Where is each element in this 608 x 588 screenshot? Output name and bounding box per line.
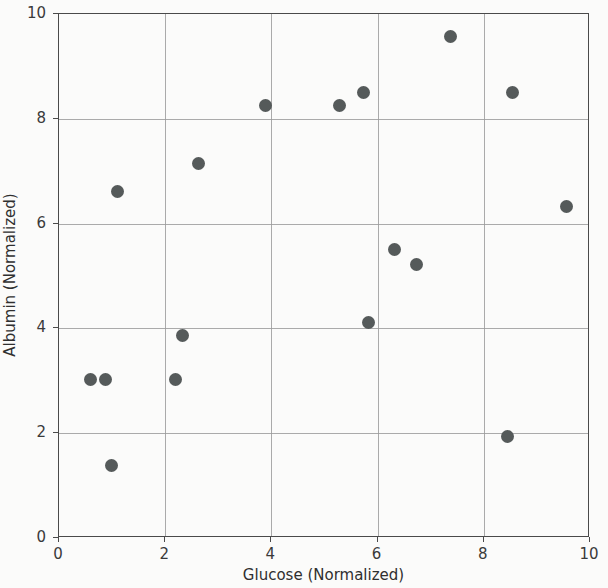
gridline-vertical (271, 14, 272, 536)
gridline-vertical (484, 14, 485, 536)
x-axis-label: Glucose (Normalized) (58, 566, 589, 584)
y-axis-tick-label: 6 (36, 214, 46, 232)
gridline-horizontal (59, 328, 588, 329)
x-axis-tick (377, 537, 378, 542)
data-point (357, 86, 370, 99)
data-point (176, 329, 189, 342)
x-axis-tick-label: 6 (372, 545, 382, 563)
y-axis-tick-label: 8 (36, 109, 46, 127)
data-point (84, 373, 97, 386)
y-axis-tick (53, 432, 58, 433)
y-axis-tick (53, 537, 58, 538)
y-axis-tick-label: 0 (36, 528, 46, 546)
gridline-horizontal (59, 119, 588, 120)
data-point (362, 316, 375, 329)
y-axis-tick-label: 4 (36, 318, 46, 336)
x-axis-tick (270, 537, 271, 542)
data-point (111, 185, 124, 198)
data-point (333, 99, 346, 112)
x-axis-tick-label: 8 (478, 545, 488, 563)
plot-area (58, 13, 589, 537)
data-point (388, 243, 401, 256)
gridline-vertical (378, 14, 379, 536)
data-point (99, 373, 112, 386)
data-point (259, 99, 272, 112)
data-point (192, 157, 205, 170)
data-point (105, 459, 118, 472)
data-point (506, 86, 519, 99)
data-point (501, 430, 514, 443)
x-axis-tick (58, 537, 59, 542)
data-point (444, 30, 457, 43)
y-axis-label: Albumin (Normalized) (0, 13, 20, 537)
y-axis-tick-label: 10 (27, 4, 46, 22)
x-axis-tick-label: 10 (579, 545, 598, 563)
scatter-chart-figure: Albumin (Normalized) Glucose (Normalized… (0, 0, 608, 588)
x-axis-tick-label: 0 (53, 545, 63, 563)
data-point (560, 200, 573, 213)
x-axis-tick (589, 537, 590, 542)
x-axis-tick (164, 537, 165, 542)
x-axis-tick-label: 4 (266, 545, 276, 563)
y-axis-tick (53, 118, 58, 119)
x-axis-tick-label: 2 (159, 545, 169, 563)
y-axis-tick (53, 13, 58, 14)
x-axis-tick (483, 537, 484, 542)
gridline-vertical (165, 14, 166, 536)
y-axis-tick-label: 2 (36, 423, 46, 441)
data-point (169, 373, 182, 386)
data-point (410, 258, 423, 271)
y-axis-tick (53, 327, 58, 328)
y-axis-tick (53, 223, 58, 224)
gridline-horizontal (59, 224, 588, 225)
